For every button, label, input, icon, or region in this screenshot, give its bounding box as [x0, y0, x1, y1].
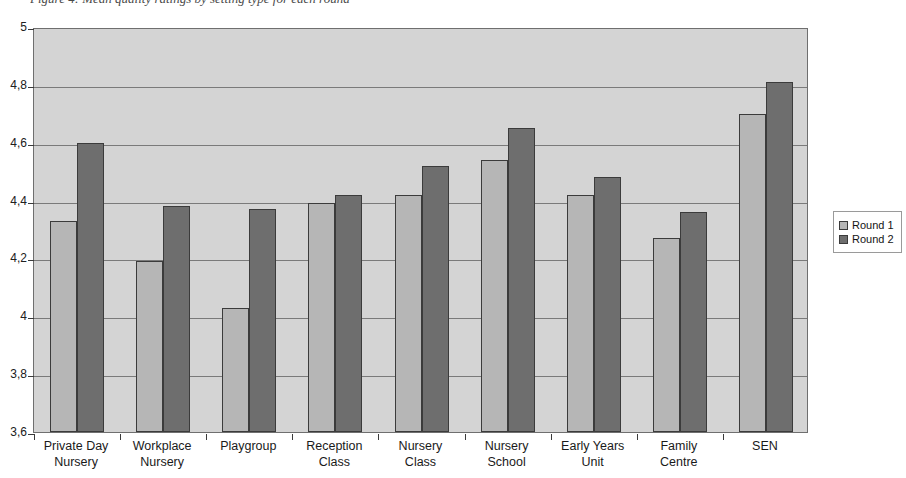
x-axis-label: NurseryClass: [377, 438, 463, 470]
y-axis-tick: [28, 203, 34, 204]
x-axis-label-line: Class: [377, 454, 463, 470]
x-axis-label-line: Private Day: [33, 438, 119, 454]
bar[interactable]: [766, 82, 793, 432]
x-axis-label-line: Reception: [291, 438, 377, 454]
y-axis-label: 4,2: [5, 251, 27, 265]
x-axis-label: Private DayNursery: [33, 438, 119, 470]
legend-swatch-round-2: [839, 235, 848, 244]
bar[interactable]: [680, 212, 707, 432]
x-axis-label: Playgroup: [205, 438, 291, 454]
legend-item[interactable]: Round 2: [839, 233, 894, 245]
y-axis-label: 4: [5, 309, 27, 323]
x-axis-label-line: School: [464, 454, 550, 470]
y-axis-tick: [28, 29, 34, 30]
bar[interactable]: [422, 166, 449, 432]
x-axis-label-line: Early Years: [550, 438, 636, 454]
x-axis-label-line: Nursery: [119, 454, 205, 470]
x-axis-label-line: Playgroup: [205, 438, 291, 454]
bar[interactable]: [163, 206, 190, 432]
x-axis-label-line: Class: [291, 454, 377, 470]
y-axis-label: 3,8: [5, 367, 27, 381]
bar[interactable]: [508, 128, 535, 432]
bar[interactable]: [395, 195, 422, 432]
y-axis: 54,84,64,44,243,83,6: [0, 28, 27, 433]
x-axis-label-line: Unit: [550, 454, 636, 470]
x-axis-label-line: Nursery: [377, 438, 463, 454]
bar[interactable]: [50, 221, 77, 432]
legend-label-round-1: Round 1: [852, 219, 894, 231]
legend-item[interactable]: Round 1: [839, 219, 894, 231]
y-axis-label: 5: [5, 20, 27, 34]
x-axis-label: FamilyCentre: [636, 438, 722, 470]
bar[interactable]: [222, 308, 249, 432]
chart-title-clipped: Figure 4: Mean quality ratings by settin…: [30, 0, 590, 7]
bar[interactable]: [739, 114, 766, 432]
y-axis-tick: [28, 87, 34, 88]
bar[interactable]: [249, 209, 276, 432]
y-axis-tick: [28, 145, 34, 146]
legend-label-round-2: Round 2: [852, 233, 894, 245]
y-axis-label: 4,6: [5, 136, 27, 150]
plot-area: [33, 28, 808, 433]
bar-chart: Figure 4: Mean quality ratings by settin…: [0, 0, 906, 478]
gridline: [34, 145, 807, 146]
x-axis-label-line: Centre: [636, 454, 722, 470]
legend: Round 1 Round 2: [833, 211, 902, 253]
y-axis-tick: [28, 260, 34, 261]
bar[interactable]: [136, 261, 163, 432]
gridline: [34, 87, 807, 88]
y-axis-label: 4,4: [5, 194, 27, 208]
bar[interactable]: [335, 195, 362, 432]
bar[interactable]: [567, 195, 594, 432]
x-axis-label: WorkplaceNursery: [119, 438, 205, 470]
legend-swatch-round-1: [839, 221, 848, 230]
x-axis-label: ReceptionClass: [291, 438, 377, 470]
x-axis-label-line: SEN: [722, 438, 808, 454]
bar[interactable]: [594, 177, 621, 432]
x-axis-label: SEN: [722, 438, 808, 454]
bar[interactable]: [481, 160, 508, 432]
bar[interactable]: [653, 238, 680, 432]
y-axis-tick: [28, 318, 34, 319]
x-axis-label: Early YearsUnit: [550, 438, 636, 470]
bar[interactable]: [308, 203, 335, 432]
y-axis-label: 4,8: [5, 78, 27, 92]
x-axis-label-line: Workplace: [119, 438, 205, 454]
x-axis-label-line: Nursery: [33, 454, 119, 470]
x-axis-label-line: Family: [636, 438, 722, 454]
bar[interactable]: [77, 143, 104, 432]
x-axis: Private DayNurseryWorkplaceNurseryPlaygr…: [33, 438, 808, 478]
y-axis-tick: [28, 376, 34, 377]
x-axis-label: NurserySchool: [464, 438, 550, 470]
x-axis-label-line: Nursery: [464, 438, 550, 454]
y-axis-label: 3,6: [5, 425, 27, 439]
